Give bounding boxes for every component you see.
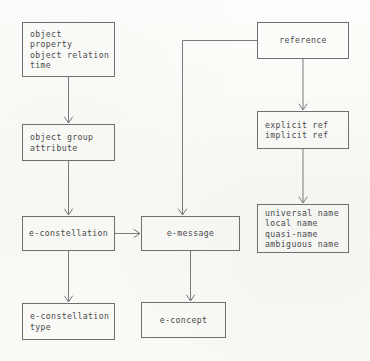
- connector-reference-to-e-message: [179, 41, 258, 216]
- node-text-line: reference: [279, 35, 327, 45]
- node-text-line: local name: [265, 218, 341, 228]
- object-properties-box: objectpropertyobject relationtime: [22, 22, 115, 77]
- node-text-line: universal name: [265, 208, 341, 218]
- diagram-page: objectpropertyobject relationtimeobject …: [0, 0, 370, 361]
- reference-box: reference: [257, 22, 349, 59]
- connector-e-message-to-e-concept: [187, 251, 195, 301]
- connector-reference-to-ref-kinds: [299, 59, 307, 110]
- node-text-line: ambiguous name: [265, 239, 341, 249]
- connector-e-constellation-to-e-message: [115, 230, 140, 238]
- node-text-line: attribute: [30, 143, 107, 153]
- node-text-line: time: [30, 60, 107, 70]
- connector-e-constellation-to-e-constellation-type: [65, 251, 73, 302]
- e-concept-box: e-concept: [141, 302, 226, 338]
- e-constellation-box: e-constellation: [22, 216, 115, 251]
- connector-ref-kinds-to-name-kinds: [299, 149, 307, 203]
- node-text-line: object: [30, 29, 107, 39]
- node-text-line: object relation: [30, 50, 107, 60]
- node-text-line: e-constellation: [29, 228, 108, 238]
- e-message-box: e-message: [141, 216, 240, 251]
- e-constellation-type-box: e-constellationtype: [22, 303, 115, 340]
- connector-object-properties-to-object-group: [65, 77, 73, 123]
- name-kinds-box: universal namelocal namequasi-nameambigu…: [257, 204, 349, 253]
- node-text-line: e-constellation: [30, 311, 107, 321]
- object-group-attribute-box: object groupattribute: [22, 124, 115, 161]
- node-text-line: implicit ref: [265, 130, 341, 140]
- node-text-line: object group: [30, 132, 107, 142]
- node-text-line: type: [30, 322, 107, 332]
- node-text-line: explicit ref: [265, 120, 341, 130]
- node-text-line: quasi-name: [265, 229, 341, 239]
- node-text-line: e-message: [167, 228, 215, 238]
- node-text-line: e-concept: [160, 315, 208, 325]
- node-text-line: property: [30, 39, 107, 49]
- connector-object-group-to-e-constellation: [65, 161, 73, 215]
- explicit-implicit-ref-box: explicit refimplicit ref: [257, 111, 349, 149]
